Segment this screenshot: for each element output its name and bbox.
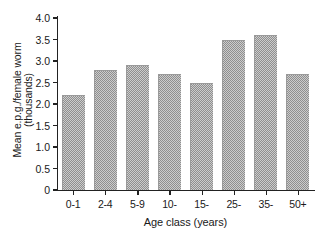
- bar-5-9: [126, 65, 149, 190]
- x-tick-mark: [266, 190, 267, 195]
- y-tick-mark: [53, 168, 58, 169]
- bar-15-: [190, 83, 213, 191]
- x-tick-mark: [105, 190, 106, 195]
- x-tick-label: 50+: [278, 198, 318, 210]
- y-tick-mark: [53, 17, 58, 18]
- bar-chart-figure: Mean e.p.g./female worm (thousands) 00.5…: [0, 0, 320, 241]
- x-axis-title: Age class (years): [57, 216, 314, 228]
- y-tick-label: 3.5: [0, 35, 57, 45]
- y-tick-label: 4.0: [0, 13, 57, 23]
- bar-50+: [286, 74, 309, 190]
- y-tick-label: 2.0: [0, 99, 57, 109]
- y-tick-mark: [53, 189, 58, 190]
- y-tick-mark: [53, 39, 58, 40]
- x-axis-line: [56, 190, 315, 191]
- y-tick-label: 0: [0, 185, 57, 195]
- plot-area: 00.51.01.52.02.53.03.54.0 0-12-45-910-15…: [57, 18, 314, 190]
- bar-2-4: [94, 70, 117, 190]
- x-tick-mark: [137, 190, 138, 195]
- bar-35-: [254, 35, 277, 190]
- y-tick-mark: [53, 103, 58, 104]
- x-tick-mark: [169, 190, 170, 195]
- y-tick-mark: [53, 125, 58, 126]
- y-tick-label: 3.0: [0, 56, 57, 66]
- bar-25-: [222, 40, 245, 191]
- y-tick-mark: [53, 82, 58, 83]
- bar-10-: [158, 74, 181, 190]
- y-tick-label: 0.5: [0, 164, 57, 174]
- y-tick-mark: [53, 60, 58, 61]
- x-tick-mark: [234, 190, 235, 195]
- x-tick-mark: [73, 190, 74, 195]
- y-tick-label: 1.0: [0, 142, 57, 152]
- y-tick-label: 2.5: [0, 78, 57, 88]
- y-tick-mark: [53, 146, 58, 147]
- bar-0-1: [62, 95, 85, 190]
- x-tick-mark: [298, 190, 299, 195]
- y-tick-label: 1.5: [0, 121, 57, 131]
- x-tick-mark: [202, 190, 203, 195]
